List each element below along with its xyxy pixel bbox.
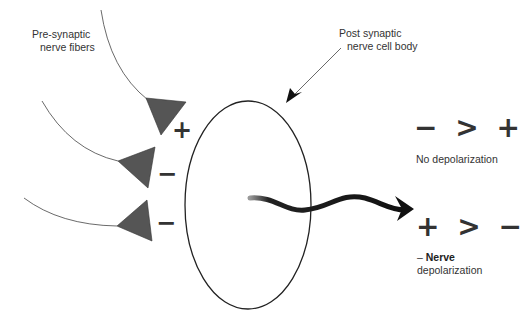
pointer-line: [293, 48, 341, 96]
post-synaptic-label: Post synaptic nerve cell body: [339, 27, 418, 53]
pre-synaptic-label: Pre-synaptic nerve fibers: [32, 28, 95, 54]
pointer-arrowhead-icon: [286, 88, 302, 103]
nerve-fiber-1: [101, 10, 148, 100]
post-synaptic-label-line1: Post synaptic: [339, 27, 418, 40]
outcome-expression-depolarization: + > −: [416, 210, 526, 243]
caption-depolarization: depolarization: [417, 264, 482, 277]
post-synaptic-cell-body: [185, 101, 311, 309]
pre-synaptic-label-line2: nerve fibers: [32, 41, 95, 54]
nerve-fiber-3: [24, 198, 117, 226]
synaptic-terminal-2: [118, 147, 155, 188]
synapse-sign-1: +: [172, 116, 192, 144]
synapse-sign-2: −: [157, 160, 177, 188]
outcome-expression-no-depolarization: − > +: [414, 111, 524, 144]
caption-dash: –: [417, 251, 426, 263]
synapse-sign-3: −: [156, 209, 176, 237]
outcome-caption-depolarization: – Nerve depolarization: [417, 251, 482, 277]
nerve-fiber-2: [42, 101, 118, 161]
post-synaptic-label-line2: nerve cell body: [339, 40, 418, 53]
outcome-caption-no-depolarization: No depolarization: [416, 153, 498, 166]
signal-wave: [250, 197, 405, 211]
caption-bold-nerve: Nerve: [426, 251, 455, 263]
synaptic-terminal-3: [117, 200, 152, 241]
pre-synaptic-label-line1: Pre-synaptic: [32, 28, 95, 41]
